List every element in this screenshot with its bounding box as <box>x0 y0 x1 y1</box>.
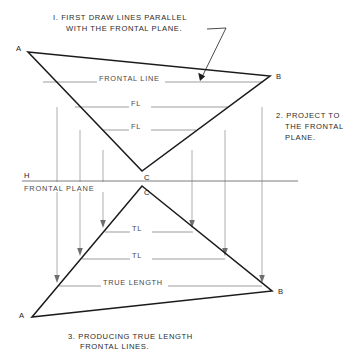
step-2-note-line-2: THE FRONTAL <box>285 122 344 131</box>
step-3-note-line-1: 3. PRODUCING TRUE LENGTH <box>68 332 193 341</box>
technical-drawing: I. FIRST DRAW LINES PARALLEL WITH THE FR… <box>0 0 353 353</box>
projector-arrow-icon-1 <box>54 275 60 283</box>
projector-arrow-icon-2 <box>77 248 83 256</box>
front-view-true-length-line-1-label: TL <box>132 224 142 233</box>
top-view-frontal-line-2-label: FL <box>131 99 141 108</box>
horizontal-plane-label: H <box>24 171 30 180</box>
diagram-canvas: I. FIRST DRAW LINES PARALLEL WITH THE FR… <box>0 0 353 353</box>
step-1-note-line-2: WITH THE FRONTAL PLANE. <box>66 24 182 33</box>
front-view-vertex-c-label: C <box>144 188 150 197</box>
top-view-frontal-line-3-label: FL <box>131 122 141 131</box>
step-3-note-line-2: FRONTAL LINES. <box>80 342 149 351</box>
step-1-leader-arrow-icon <box>198 73 205 81</box>
front-view-true-length-line-3-label: TRUE LENGTH <box>103 278 163 287</box>
front-view-vertex-a-label: A <box>19 311 25 320</box>
step-2-note-line-1: 2. PROJECT TO <box>276 111 340 120</box>
top-view-vertex-b-label: B <box>276 72 281 81</box>
step-2-note-line-3: PLANE. <box>285 133 316 142</box>
top-view-vertex-a-label: A <box>16 44 22 53</box>
step-1-note-line-1: I. FIRST DRAW LINES PARALLEL <box>53 13 187 22</box>
projector-arrow-icon-3 <box>100 220 106 228</box>
front-view-vertex-b-label: B <box>278 287 283 296</box>
frontal-plane-label: FRONTAL PLANE <box>24 184 94 193</box>
top-view-frontal-line-1-label: FRONTAL LINE <box>99 74 160 83</box>
top-view-triangle <box>28 52 270 171</box>
front-view-true-length-line-2-label: TL <box>132 251 142 260</box>
